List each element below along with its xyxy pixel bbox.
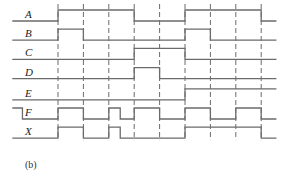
signal-label-b: B — [25, 27, 32, 39]
waveform-f — [12, 108, 276, 119]
signal-label-a: A — [24, 8, 32, 20]
waveform-e — [12, 89, 276, 100]
waveform-b — [12, 29, 276, 40]
waveform-a — [12, 10, 276, 21]
timing-diagram: ABCDEFX (b) — [0, 0, 287, 175]
waveform-x — [12, 127, 276, 138]
signal-waveforms — [12, 10, 276, 138]
waveform-c — [12, 48, 276, 59]
signal-label-x: X — [24, 125, 33, 137]
signal-label-c: C — [25, 46, 33, 58]
figure-caption: (b) — [25, 159, 37, 171]
signal-label-f: F — [24, 106, 32, 118]
waveform-d — [12, 68, 276, 79]
signal-label-e: E — [24, 87, 32, 99]
signal-label-d: D — [24, 66, 33, 78]
signal-labels: ABCDEFX — [24, 8, 33, 137]
